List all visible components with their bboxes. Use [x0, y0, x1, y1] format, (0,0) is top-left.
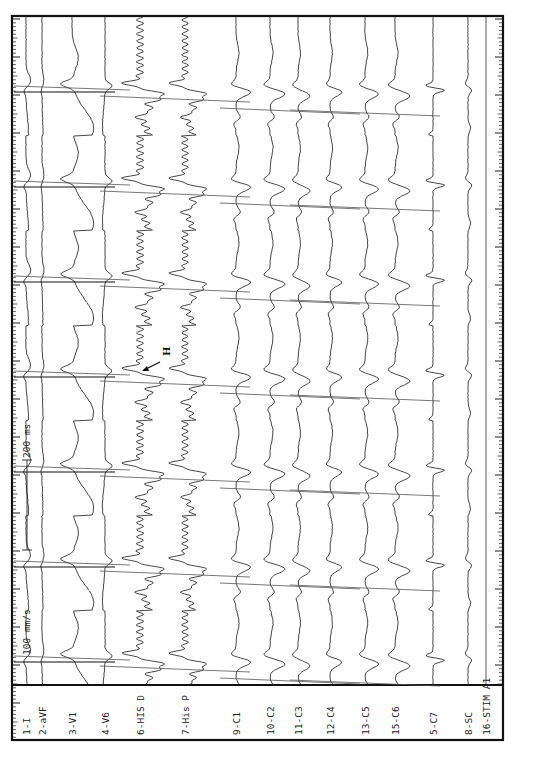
- channel-label: 15-C6: [390, 706, 401, 735]
- channel-label: 2-aVF: [37, 706, 48, 735]
- channel-traces: [14, 17, 472, 686]
- svg-text:9-C1: 9-C1: [231, 712, 242, 735]
- trace-1-i: [24, 17, 31, 684]
- trace-6-his-d: [122, 17, 165, 684]
- his-marker-label: H: [161, 347, 172, 356]
- calibration-bar: [22, 460, 32, 550]
- trace-7-his-p: [169, 17, 207, 684]
- channel-label: 13-C5: [360, 706, 371, 735]
- time-ruler-right: [495, 19, 502, 684]
- trace-13-c5: [359, 17, 378, 684]
- calibration-label: 200 ms: [21, 424, 32, 458]
- channel-label: 7-His P: [180, 695, 191, 735]
- his-arrowhead-icon: [142, 366, 149, 371]
- beat-spike-group: [14, 656, 440, 686]
- trace-12-c4: [326, 17, 342, 684]
- svg-text:1-I: 1-I: [21, 718, 32, 735]
- trace-15-c6: [388, 17, 410, 684]
- svg-text:3-V1: 3-V1: [67, 712, 78, 735]
- trace-4-v6: [102, 17, 112, 684]
- channel-label: 11-C3: [293, 706, 304, 735]
- channel-label: 10-C2: [265, 706, 276, 735]
- recording-frame: [12, 16, 503, 740]
- channel-label: 6-HIS D: [135, 695, 146, 735]
- beat-spike-group: [14, 86, 440, 116]
- svg-text:11-C3: 11-C3: [293, 706, 304, 735]
- paper-speed-label: 100 mm/s: [21, 609, 32, 655]
- svg-text:10-C2: 10-C2: [265, 706, 276, 735]
- channel-label: 1-I: [21, 718, 32, 735]
- channel-label: 4-V6: [100, 712, 111, 735]
- channel-label: 9-C1: [231, 712, 242, 735]
- svg-text:2-aVF: 2-aVF: [37, 706, 48, 735]
- beat-spike-group: [14, 181, 440, 211]
- his-annotation: H: [142, 347, 172, 371]
- svg-text:4-V6: 4-V6: [100, 712, 111, 735]
- channel-label: 3-V1: [67, 712, 78, 735]
- svg-text:13-C5: 13-C5: [360, 706, 371, 735]
- time-ruler-left: [13, 19, 20, 737]
- trace-8-sc: [465, 17, 472, 684]
- beat-spike-group: [14, 371, 440, 401]
- trace-2-avf: [41, 17, 44, 684]
- svg-text:16-STIM A1: 16-STIM A1: [481, 678, 492, 735]
- trace-10-c2: [264, 17, 285, 684]
- svg-text:12-C4: 12-C4: [325, 706, 336, 735]
- svg-text:8-SC: 8-SC: [463, 712, 474, 735]
- channel-label: 5-C7: [428, 712, 439, 735]
- svg-text:6-HIS D: 6-HIS D: [135, 695, 146, 735]
- svg-text:15-C6: 15-C6: [390, 706, 401, 735]
- beat-spike-group: [14, 561, 440, 591]
- beat-spike-group: [14, 466, 440, 496]
- paper-speed-annotation: 100 mm/s: [21, 609, 32, 655]
- trace-11-c3: [293, 17, 311, 684]
- svg-text:5-C7: 5-C7: [428, 712, 439, 735]
- trace-5-c7: [426, 17, 445, 684]
- channel-label: 16-STIM A1: [481, 678, 492, 735]
- calibration-annotation: 200 ms: [21, 424, 32, 458]
- electrogram-recording: 100 mm/s 200 ms H 1-I2-aVF3-V14-V66-HIS …: [0, 0, 541, 774]
- channel-label-panel: 1-I2-aVF3-V14-V66-HIS D7-His P9-C110-C21…: [21, 678, 492, 735]
- svg-text:7-His P: 7-His P: [180, 695, 191, 735]
- channel-label: 8-SC: [463, 712, 474, 735]
- channel-label: 12-C4: [325, 706, 336, 735]
- electrogram-plot: 100 mm/s 200 ms H 1-I2-aVF3-V14-V66-HIS …: [0, 0, 541, 774]
- trace-3-v1: [60, 17, 94, 684]
- beat-spike-group: [14, 276, 440, 306]
